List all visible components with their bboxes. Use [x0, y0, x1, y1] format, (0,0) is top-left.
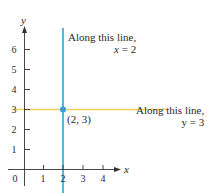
x-axis-arrow-icon	[114, 167, 121, 172]
x-tick-label-2: 2	[59, 174, 67, 184]
y-tick-label-5: 5	[10, 65, 18, 75]
point-2-3	[60, 107, 66, 113]
point-label: (2, 3)	[67, 113, 91, 125]
horizontal-line-annotation: Along this line, y = 3	[136, 104, 204, 128]
coordinate-plane	[0, 0, 215, 193]
y-tick-label-2: 2	[10, 125, 18, 135]
x-ticks	[44, 165, 104, 170]
y-tick-label-4: 4	[10, 85, 18, 95]
origin-label: 0	[11, 174, 19, 184]
y-tick-label-3: 3	[10, 105, 18, 115]
horizontal-line-annotation-line1: Along this line,	[136, 104, 204, 116]
x-tick-label-3: 3	[79, 174, 87, 184]
x-tick-label-4: 4	[99, 174, 107, 184]
y-tick-label-6: 6	[10, 45, 18, 55]
vertical-line-annotation: Along this line, x = 2	[68, 31, 136, 55]
vertical-line-annotation-line2: x = 2	[68, 43, 136, 55]
y-axis-label: y	[21, 14, 26, 26]
x-axis-label: x	[124, 163, 129, 175]
horizontal-line-annotation-line2: y = 3	[136, 116, 204, 128]
y-axis-arrow-icon	[22, 26, 27, 33]
x-tick-label-1: 1	[39, 174, 47, 184]
y-ticks	[25, 50, 31, 150]
vertical-line-annotation-line1: Along this line,	[68, 31, 136, 43]
y-tick-label-1: 1	[10, 145, 18, 155]
